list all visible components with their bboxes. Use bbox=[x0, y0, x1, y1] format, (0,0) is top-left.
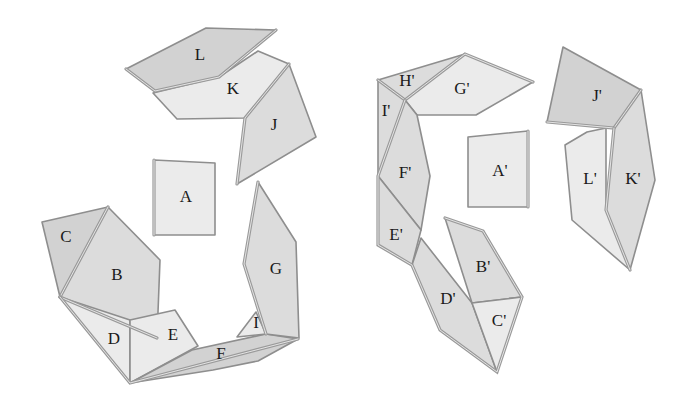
label-left-d: D bbox=[108, 329, 120, 348]
label-right-i-prime: I' bbox=[382, 101, 391, 120]
label-right-d-prime: D' bbox=[440, 289, 455, 308]
label-right-k-prime: K' bbox=[625, 169, 640, 188]
label-left-i: I bbox=[253, 313, 259, 332]
label-right-a-prime: A' bbox=[492, 161, 507, 180]
label-left-l: L bbox=[195, 45, 205, 64]
label-left-a: A bbox=[180, 187, 193, 206]
right-figure-net bbox=[378, 47, 655, 372]
label-right-l-prime: L' bbox=[583, 169, 596, 188]
label-left-k: K bbox=[227, 79, 240, 98]
label-right-g-prime: G' bbox=[454, 79, 469, 98]
label-left-j: J bbox=[271, 115, 278, 134]
label-right-h-prime: H' bbox=[399, 71, 414, 90]
label-right-e-prime: E' bbox=[389, 225, 402, 244]
label-left-c: C bbox=[60, 227, 71, 246]
label-left-e: E bbox=[168, 325, 178, 344]
label-right-c-prime: C' bbox=[492, 311, 506, 330]
label-right-f-prime: F' bbox=[399, 163, 412, 182]
label-left-f: F bbox=[216, 344, 225, 363]
label-right-j-prime: J' bbox=[592, 86, 602, 105]
folding-net-diagram: LKJACBDEFIGH'G'I'F'E'D'A'B'C'J'K'L' bbox=[0, 0, 689, 415]
label-right-b-prime: B' bbox=[476, 257, 490, 276]
label-left-b: B bbox=[111, 265, 122, 284]
label-left-g: G bbox=[270, 259, 282, 278]
